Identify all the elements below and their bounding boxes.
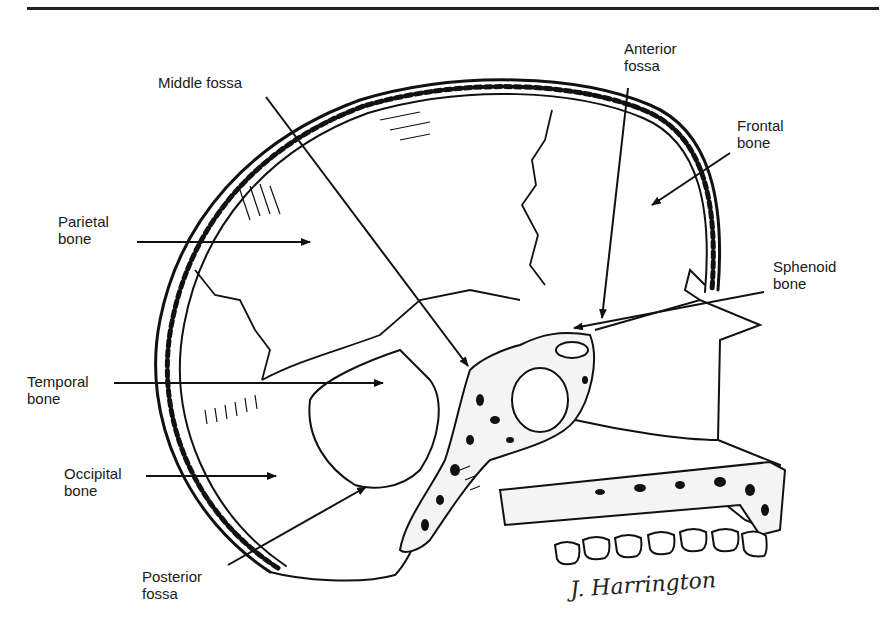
arrow-anterior-fossa xyxy=(602,88,628,318)
label-temporal-bone: Temporal bone xyxy=(27,373,89,407)
sutures xyxy=(195,110,552,380)
label-parietal-bone: Parietal bone xyxy=(58,213,109,247)
arrow-posterior-fossa xyxy=(228,487,366,565)
skull-illustration xyxy=(0,0,888,639)
label-sphenoid-bone: Sphenoid bone xyxy=(773,258,836,292)
arrow-frontal-bone xyxy=(652,153,730,205)
label-occipital-bone: Occipital bone xyxy=(64,465,122,499)
hard-palate xyxy=(500,462,785,535)
label-anterior-fossa: Anterior fossa xyxy=(624,40,677,74)
arrow-middle-fossa xyxy=(266,97,468,366)
label-middle-fossa: Middle fossa xyxy=(158,74,242,91)
label-frontal-bone: Frontal bone xyxy=(737,117,784,151)
teeth xyxy=(555,529,767,564)
label-posterior-fossa: Posterior fossa xyxy=(142,568,202,602)
